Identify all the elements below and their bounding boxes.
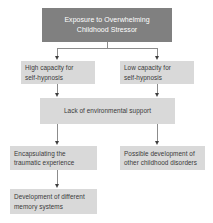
node-low-capacity-line2: self-hypnosis [124, 74, 162, 81]
node-memory-systems-line1: Development of different [14, 193, 85, 200]
connector-encapsulating-to-memory [57, 170, 58, 185]
node-possible-development-line2: other childhood disorders [124, 159, 197, 166]
connector-support-to-possible-development [157, 124, 158, 142]
node-high-capacity-line1: High capacity for [25, 64, 73, 71]
arrowhead-low-capacity-to-support-icon [155, 93, 159, 97]
node-low-capacity-line1: Low capacity for [124, 64, 171, 71]
arrowhead-to-low-capacity-icon [155, 56, 159, 60]
connector-split-bar [57, 48, 158, 49]
node-encapsulating-label: Encapsulating thetraumatic experience [14, 149, 93, 168]
flowchart-diagram: Exposure to OverwhelmingChildhood Stress… [0, 0, 213, 223]
node-stressor-line2: Childhood Stressor [77, 26, 137, 33]
connector-support-to-encapsulating [57, 124, 58, 142]
node-memory-systems[interactable]: Development of differentmemory systems [10, 189, 97, 214]
node-stressor[interactable]: Exposure to OverwhelmingChildhood Stress… [42, 8, 172, 42]
node-high-capacity[interactable]: High capacity forself-hypnosis [21, 61, 95, 84]
node-encapsulating[interactable]: Encapsulating thetraumatic experience [10, 146, 97, 170]
node-stressor-line1: Exposure to Overwhelming [64, 16, 149, 23]
node-high-capacity-label: High capacity forself-hypnosis [25, 63, 91, 82]
node-stressor-label: Exposure to OverwhelmingChildhood Stress… [46, 15, 168, 35]
arrowhead-encapsulating-to-memory-icon [55, 184, 59, 188]
node-memory-systems-label: Development of differentmemory systems [14, 192, 93, 211]
node-possible-development-line1: Possible development of [124, 150, 195, 157]
node-possible-development[interactable]: Possible development ofother childhood d… [120, 146, 205, 170]
arrowhead-support-to-encapsulating-icon [55, 141, 59, 145]
node-high-capacity-line2: self-hypnosis [25, 74, 63, 81]
node-lack-support[interactable]: Lack of environmental support [40, 98, 175, 124]
arrowhead-high-capacity-to-support-icon [55, 93, 59, 97]
node-encapsulating-line1: Encapsulating the [14, 150, 66, 157]
node-low-capacity-label: Low capacity forself-hypnosis [124, 63, 190, 82]
node-memory-systems-line2: memory systems [14, 203, 63, 210]
arrowhead-support-to-possible-development-icon [155, 141, 159, 145]
node-low-capacity[interactable]: Low capacity forself-hypnosis [120, 61, 194, 84]
arrowhead-to-high-capacity-icon [55, 56, 59, 60]
node-encapsulating-line2: traumatic experience [14, 159, 74, 166]
node-lack-support-label: Lack of environmental support [44, 106, 171, 115]
node-possible-development-label: Possible development ofother childhood d… [124, 149, 201, 168]
